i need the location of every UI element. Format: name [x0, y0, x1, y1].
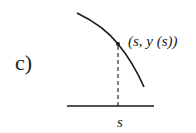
curve-point [116, 42, 120, 46]
solution-curve [77, 13, 144, 87]
axis-tick-label: s [117, 114, 123, 130]
point-label: (s, y (s)) [128, 33, 178, 50]
diagram-canvas: c) (s, y (s)) s [0, 0, 196, 133]
panel-label: c) [15, 50, 32, 75]
